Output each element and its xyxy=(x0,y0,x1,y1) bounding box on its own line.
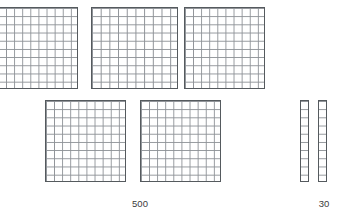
flat-block xyxy=(184,7,265,89)
rod-block xyxy=(300,100,309,182)
tens-rods-value-label: 30 xyxy=(310,198,337,209)
flat-block xyxy=(0,7,78,89)
flat-block xyxy=(140,100,221,182)
flat-block xyxy=(45,100,126,182)
base-ten-blocks-canvas: 50030 xyxy=(0,0,337,209)
flat-block xyxy=(91,7,178,89)
hundreds-flats-value-label: 500 xyxy=(122,198,158,209)
rod-block xyxy=(318,100,327,182)
